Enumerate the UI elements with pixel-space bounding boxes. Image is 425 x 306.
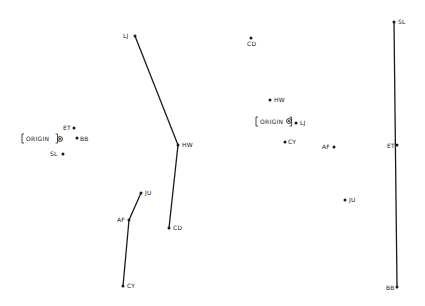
point-label: AF bbox=[117, 216, 125, 223]
point-marker-icon bbox=[140, 192, 143, 195]
data-point-hw: HW bbox=[177, 141, 193, 148]
right-bracket-icon bbox=[56, 134, 58, 143]
point-label: ET bbox=[63, 124, 71, 131]
point-label: CY bbox=[288, 138, 296, 145]
point-marker-icon bbox=[128, 219, 131, 222]
point-label: SL bbox=[50, 150, 58, 157]
point-label: JU bbox=[144, 189, 152, 197]
point-marker-icon bbox=[122, 285, 125, 288]
connector-line bbox=[135, 36, 178, 145]
point-label: CD bbox=[247, 40, 256, 47]
origin-center-icon bbox=[288, 120, 290, 122]
data-point-cy: CY bbox=[284, 138, 297, 145]
data-point-ju: JU bbox=[140, 189, 152, 197]
left-panel: ORIGINETBBSLLJHWCDJUAFCY bbox=[22, 32, 193, 289]
point-marker-icon bbox=[168, 227, 171, 230]
point-label: JU bbox=[348, 196, 356, 204]
origin-label: ORIGIN bbox=[260, 118, 283, 125]
point-marker-icon bbox=[269, 99, 272, 102]
point-label: CY bbox=[127, 282, 135, 289]
point-label: LJ bbox=[123, 32, 129, 40]
connector-line bbox=[123, 220, 129, 286]
data-point-af: AF bbox=[322, 143, 336, 150]
connector-line bbox=[394, 22, 397, 287]
point-marker-icon bbox=[344, 199, 347, 202]
data-point-lj: LJ bbox=[295, 119, 306, 127]
left-bracket-icon bbox=[256, 117, 258, 126]
point-label: ET bbox=[387, 142, 395, 149]
data-point-et: ET bbox=[387, 142, 399, 149]
data-point-et: ET bbox=[63, 124, 76, 131]
connector-line bbox=[129, 193, 141, 220]
left-bracket-icon bbox=[22, 134, 24, 143]
point-label: LJ bbox=[300, 119, 306, 127]
point-label: HW bbox=[182, 141, 193, 148]
data-point-bb: BB bbox=[76, 135, 89, 142]
point-marker-icon bbox=[177, 144, 180, 147]
data-point-hw: HW bbox=[269, 96, 285, 103]
point-label: AF bbox=[322, 143, 330, 150]
origin-marker: ORIGIN bbox=[22, 134, 62, 143]
data-point-sl: SL bbox=[50, 150, 65, 157]
point-label: CD bbox=[173, 224, 182, 231]
point-marker-icon bbox=[396, 286, 399, 289]
point-marker-icon bbox=[396, 144, 399, 147]
point-marker-icon bbox=[76, 137, 79, 140]
right-panel: ORIGINCDHWLJCYAFJUSLETBB bbox=[247, 18, 406, 291]
origin-label: ORIGIN bbox=[26, 135, 49, 142]
point-marker-icon bbox=[333, 146, 336, 149]
point-label: HW bbox=[274, 96, 285, 103]
connector-line bbox=[169, 145, 178, 228]
diagram-canvas: ORIGINETBBSLLJHWCDJUAFCY ORIGINCDHWLJCYA… bbox=[0, 0, 425, 306]
point-marker-icon bbox=[284, 141, 287, 144]
origin-marker: ORIGIN bbox=[256, 117, 292, 126]
point-marker-icon bbox=[73, 127, 76, 130]
point-label: SL bbox=[398, 18, 406, 25]
point-label: BB bbox=[386, 284, 395, 291]
data-point-cd: CD bbox=[247, 37, 256, 48]
point-marker-icon bbox=[295, 122, 298, 125]
point-marker-icon bbox=[62, 153, 65, 156]
data-point-ju: JU bbox=[344, 196, 356, 204]
data-point-lj: LJ bbox=[123, 32, 137, 40]
origin-center-icon bbox=[59, 138, 61, 140]
point-marker-icon bbox=[134, 35, 137, 38]
point-label: BB bbox=[80, 135, 89, 142]
point-marker-icon bbox=[393, 21, 396, 24]
